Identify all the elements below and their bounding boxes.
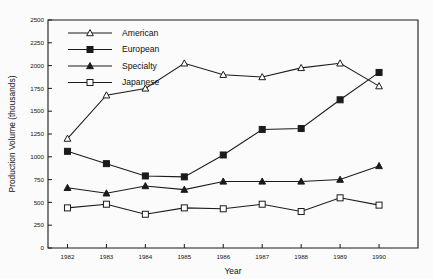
data-point-marker [220,152,226,158]
legend-item-european[interactable]: European [68,44,159,54]
legend-label: European [122,44,159,54]
data-point-marker [376,202,382,208]
data-point-marker [181,205,187,211]
data-point-marker [103,161,109,167]
y-tick-label: 1000 [30,153,44,160]
chart-canvas: 02505007501000125015001750200022502500 1… [0,0,433,279]
data-point-marker [298,209,304,215]
legend-marker [87,47,93,53]
x-axis-ticks: 198219831984198519861987198819891990 [61,244,387,260]
x-tick-label: 1985 [177,253,191,260]
data-point-marker [337,195,343,201]
data-point-marker [181,174,187,180]
legend-label: Specialty [122,61,158,71]
y-tick-label: 2000 [30,62,44,69]
data-point-marker [64,205,70,211]
x-tick-label: 1984 [138,253,152,260]
y-axis-ticks: 02505007501000125015001750200022502500 [30,16,52,251]
data-point-marker [259,126,265,132]
y-tick-label: 1500 [30,107,44,114]
legend-label: American [122,28,159,38]
series-american [64,60,382,141]
chart-axes [48,20,418,248]
y-axis-title: Production Volume (thousands) [7,75,17,192]
chart-legend: AmericanEuropeanSpecialtyJapanese [68,28,159,88]
y-tick-label: 0 [41,244,45,251]
data-series-group [64,60,382,217]
data-point-marker [142,183,149,189]
x-tick-label: 1988 [294,253,308,260]
data-point-marker [259,201,265,207]
x-tick-label: 1989 [333,253,347,260]
data-point-marker [181,60,188,66]
y-tick-label: 750 [34,176,45,183]
legend-label: Japanese [122,77,159,87]
x-tick-label: 1987 [255,253,269,260]
y-tick-label: 1250 [30,130,44,137]
series-japanese [64,195,382,217]
data-point-marker [337,97,343,103]
legend-item-japanese[interactable]: Japanese [68,77,159,87]
data-point-marker [376,69,382,75]
series-european [64,69,382,179]
x-axis-title: Year [225,266,242,276]
x-tick-label: 1990 [372,253,386,260]
data-point-marker [142,173,148,179]
data-point-marker [376,162,383,168]
y-tick-label: 2250 [30,39,44,46]
data-point-marker [337,60,344,66]
legend-marker [87,80,93,86]
data-point-marker [142,211,148,217]
series-line [67,72,379,176]
legend-item-specialty[interactable]: Specialty [68,61,158,71]
x-tick-label: 1982 [61,253,75,260]
y-tick-label: 500 [34,199,45,206]
y-tick-label: 2500 [30,16,44,23]
production-volume-line-chart: 02505007501000125015001750200022502500 1… [0,0,433,279]
y-tick-label: 250 [34,221,45,228]
legend-item-american[interactable]: American [68,28,159,38]
data-point-marker [220,206,226,212]
data-point-marker [64,184,71,190]
data-point-marker [64,148,70,154]
series-specialty [64,162,382,196]
data-point-marker [376,83,383,89]
y-tick-label: 1750 [30,85,44,92]
data-point-marker [103,201,109,207]
data-point-marker [298,126,304,132]
plot-frame [48,20,418,248]
x-tick-label: 1983 [100,253,114,260]
x-tick-label: 1986 [216,253,230,260]
